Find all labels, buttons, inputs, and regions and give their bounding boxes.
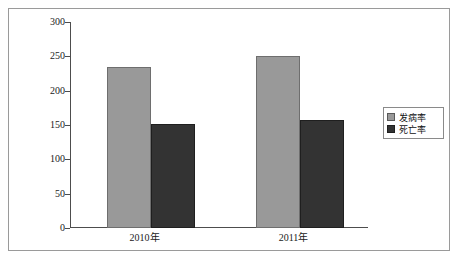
bar-mortality: [151, 124, 195, 228]
y-axis-tick-label: 250: [22, 51, 65, 61]
y-axis-tick-label: 150: [22, 120, 65, 130]
y-axis-tick-label-text: 300: [31, 17, 65, 27]
y-axis-tick-label: 0: [22, 223, 65, 233]
y-axis-tick-label-text: 150: [31, 120, 65, 130]
chart-legend: 发病率 死亡率: [383, 107, 444, 139]
legend-label-mortality: 死亡率: [399, 123, 426, 136]
y-axis-tick-label: 50: [22, 189, 65, 199]
x-axis-category-label: 2010年: [70, 232, 219, 244]
y-axis-tick-label: 200: [22, 86, 65, 96]
y-axis-tick: [65, 228, 70, 229]
y-axis-tick-label: 300: [22, 17, 65, 27]
bar-group: [256, 22, 344, 228]
bar-incidence: [256, 56, 300, 228]
y-axis-tick-label-text: 200: [31, 86, 65, 96]
y-axis-tick-label-text: 250: [31, 51, 65, 61]
legend-swatch-mortality-icon: [387, 125, 395, 133]
bar-mortality: [300, 120, 344, 228]
legend-swatch-incidence-icon: [387, 113, 395, 121]
legend-item-incidence: 发病率: [387, 111, 439, 123]
y-axis-tick-label-text: 50: [31, 189, 65, 199]
x-axis-category-label: 2011年: [219, 232, 368, 244]
plot-area: [70, 22, 368, 228]
y-axis-tick-label-text: 100: [31, 154, 65, 164]
chart-figure: 050100150200250300 2010年2011年 发病率 死亡率: [0, 0, 461, 263]
bar-incidence: [107, 67, 151, 228]
bar-group: [107, 22, 195, 228]
y-axis-tick-label: 100: [22, 154, 65, 164]
y-axis-tick-label-text: 0: [31, 223, 65, 233]
legend-item-mortality: 死亡率: [387, 123, 439, 135]
